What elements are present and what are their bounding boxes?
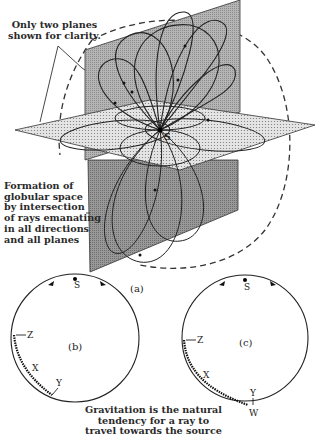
caption-gravitation: Gravitation is the natural tendency for … [85, 405, 222, 437]
point-x-b: X [32, 363, 39, 373]
point-x-c: X [203, 370, 210, 380]
point-y-c: Y [249, 388, 257, 398]
point-z-b: Z [27, 330, 33, 340]
note-globular-space: Formation of globular space by intersect… [4, 181, 101, 245]
panel-a-3d-planes: S (a) [15, 0, 315, 294]
source-label-a: S [164, 132, 171, 142]
source-label-c: S [244, 282, 250, 292]
source-label-b: S [74, 280, 80, 290]
point-w-c: W [249, 408, 259, 418]
panel-b-circle: S Z X Y (b) [11, 274, 139, 402]
panel-b-label: (b) [68, 341, 82, 352]
source-point-s [158, 128, 163, 133]
panel-a-label: (a) [130, 283, 144, 294]
panel-c-label: (c) [239, 337, 253, 348]
panel-c-circle: S Z X Y W (c) [182, 275, 308, 418]
point-z-c: Z [197, 335, 203, 345]
point-y-b: Y [55, 378, 63, 388]
note-two-planes: Only two planes shown for clarity. [8, 20, 101, 41]
